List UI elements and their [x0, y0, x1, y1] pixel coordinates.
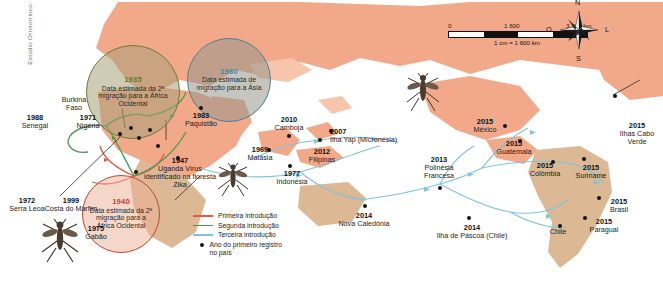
label-ilha-de-pascoa: 2014 Ilha de Páscoa (Chile)	[424, 224, 520, 240]
label-uganda-origin: 1947 Uganda Vírus identificado na flores…	[140, 157, 220, 188]
label-name: Suriname	[566, 172, 616, 180]
compass-icon	[556, 4, 602, 54]
bubble-text: Data estimada de migração para a Ásia	[188, 76, 270, 92]
label-chile: Chile	[540, 228, 576, 236]
label-senegal: 1988 Senegal	[4, 114, 66, 130]
label-paquistao: 1983 Paquistão	[174, 112, 228, 128]
label-burkina-faso: Burkina Faso	[54, 96, 94, 112]
zika-spread-map: Estúdio Ornitorrinco 1935 Data estimada …	[0, 0, 663, 289]
label-name: Guatemala	[486, 148, 542, 156]
label-name: Burkina Faso	[54, 96, 94, 112]
label-name: Costa do Marfim	[42, 205, 100, 213]
top-title-fragment	[300, 0, 490, 9]
label-costa-do-marfim: 1999 Costa do Marfim	[42, 197, 100, 213]
label-name: Paquistão	[174, 120, 228, 128]
label-paraguai: 2015 Paraguai	[582, 218, 626, 234]
credit-text: Estúdio Ornitorrinco	[26, 4, 33, 65]
label-mexico: 2015 México	[464, 118, 506, 134]
label-name: Filipinas	[300, 156, 344, 164]
legend-label: Ano do primeiro registro no país	[209, 241, 287, 257]
label-name: Malásia	[236, 154, 284, 162]
label-name: Camboja	[264, 124, 314, 132]
label-name: Ilha Yap (Micronésia)	[330, 136, 426, 144]
bubble-text: Data estimada da 2ª migração para a Áfri…	[87, 85, 179, 109]
legend: Primeira introdução Segunda introdução T…	[193, 212, 287, 258]
legend-item-ano-primeiro-registro: Ano do primeiro registro no país	[193, 241, 287, 257]
label-name: Brasil	[600, 206, 638, 214]
label-indonesia: 1977 Indonésia	[266, 170, 318, 186]
compass-south: S	[576, 54, 581, 63]
legend-label: Terceira introdução	[218, 231, 276, 239]
label-name: Ilha de Páscoa (Chile)	[424, 232, 520, 240]
legend-line-first	[193, 215, 213, 217]
compass-west: O	[546, 25, 552, 34]
label-brasil: 2015 Brasil	[600, 198, 638, 214]
label-polinesia-francesa: 2013 Polinésia Francesa	[410, 156, 468, 180]
label-name: Indonésia	[266, 178, 318, 186]
label-name: Nova Caledônia	[327, 220, 401, 228]
legend-dot-icon	[200, 243, 204, 247]
label-name: Chile	[540, 228, 576, 236]
legend-item-primeira-introducao: Primeira introdução	[193, 212, 287, 220]
mosquito-icon-seasia	[218, 163, 248, 196]
label-camboja: 2010 Camboja	[264, 116, 314, 132]
legend-label: Segunda introdução	[218, 222, 279, 230]
label-colombia: 2015 Colômbia	[520, 162, 570, 178]
legend-label: Primeira introdução	[218, 212, 277, 220]
label-guatemala: 2015 Guatemala	[486, 140, 542, 156]
label-ilha-yap: 2007 Ilha Yap (Micronésia)	[330, 128, 426, 144]
legend-line-second	[193, 225, 213, 227]
legend-line-third	[193, 234, 213, 236]
label-name: Ilhas Cabo Verde	[614, 130, 660, 146]
scale-tick-1: 1 600	[504, 22, 519, 29]
bubble-year: 1935	[124, 76, 142, 85]
label-name: Nigéria	[62, 122, 114, 130]
legend-item-segunda-introducao: Segunda introdução	[193, 222, 287, 230]
bubble-year: 1940	[112, 198, 130, 207]
label-name: Colômbia	[520, 170, 570, 178]
compass-north: N	[575, 0, 580, 7]
label-name: México	[464, 126, 506, 134]
label-name: Uganda Vírus identificado na floresta Zi…	[140, 165, 220, 188]
mosquito-icon-asia	[406, 73, 439, 111]
label-malasia: 1969 Malásia	[236, 146, 284, 162]
label-gabao: 1975 Gabão	[72, 225, 120, 241]
legend-item-terceira-introducao: Terceira introdução	[193, 231, 287, 239]
bubble-year: 1960	[220, 68, 238, 77]
label-name: Gabão	[72, 233, 120, 241]
label-name: Polinésia Francesa	[410, 164, 468, 180]
label-filipinas: 2012 Filipinas	[300, 148, 344, 164]
label-nova-caledonia: 2014 Nova Caledônia	[327, 212, 401, 228]
label-name: Paraguai	[582, 226, 626, 234]
label-name: Senegal	[4, 122, 66, 130]
compass-east: L	[605, 25, 609, 34]
scale-tick-0: 0	[448, 22, 451, 29]
label-nigeria: 1971 Nigéria	[62, 114, 114, 130]
label-ilhas-cabo-verde: 2015 Ilhas Cabo Verde	[614, 122, 660, 146]
label-suriname: 2015 Suriname	[566, 164, 616, 180]
compass-rose: N S O L	[556, 4, 602, 54]
